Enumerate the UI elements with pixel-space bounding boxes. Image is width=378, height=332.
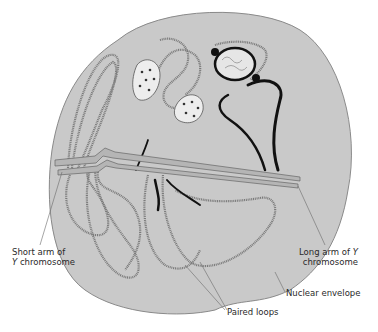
short-arm-rest: chromosome <box>17 257 75 267</box>
long-arm-rest: Long arm of <box>299 247 353 257</box>
long-arm-label-line2: chromosome <box>299 257 358 267</box>
long-arm-y: Y <box>353 247 358 257</box>
short-arm-label-line2: Y chromosome <box>12 257 75 267</box>
nuclear-envelope-label: Nuclear envelope <box>286 288 360 298</box>
short-arm-label-line1: Short arm of <box>12 247 75 257</box>
paired-loops-label: Paired loops <box>227 307 279 317</box>
nucleus-diagram <box>0 0 378 332</box>
short-arm-label: Short arm of Y chromosome <box>12 247 75 267</box>
long-arm-label-line1: Long arm of Y <box>299 247 358 257</box>
long-arm-label: Long arm of Y chromosome <box>299 247 358 267</box>
